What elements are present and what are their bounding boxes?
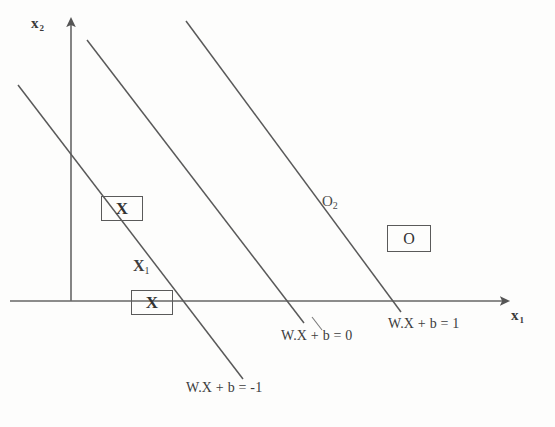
x1-annotation: X1 xyxy=(133,258,150,274)
upper-margin-line xyxy=(186,21,401,312)
o2-annotation-subscript: 2 xyxy=(333,200,338,211)
equation-label-boundary: W.X + b = 0 xyxy=(281,329,353,343)
support-vector-x-lower: X xyxy=(131,290,173,315)
support-vector-x-upper: X xyxy=(101,196,143,221)
support-vector-x-upper-glyph: X xyxy=(116,199,128,219)
x1-annotation-subscript: 1 xyxy=(145,265,150,276)
svm-diagram: x2 x1 X X1 X O2 O W.X + b = 0 W.X + b = … xyxy=(0,0,555,427)
x1-annotation-text: X xyxy=(133,257,145,274)
equation-label-upper-margin: W.X + b = 1 xyxy=(388,317,460,331)
equation-label-lower-margin: W.X + b = -1 xyxy=(186,381,262,395)
class-o-point: O xyxy=(387,225,431,252)
y-axis-label: x2 xyxy=(31,16,44,31)
class-o-point-glyph: O xyxy=(403,230,415,248)
y-axis-label-text: x xyxy=(31,15,39,31)
o2-annotation: O2 xyxy=(322,194,338,209)
x-axis-label-text: x xyxy=(511,307,519,323)
x-axis-label-subscript: 1 xyxy=(520,315,525,325)
support-vector-x-lower-glyph: X xyxy=(146,293,158,313)
o2-annotation-text: O xyxy=(322,193,333,209)
decision-boundary-line xyxy=(87,40,304,323)
y-axis-label-subscript: 2 xyxy=(40,23,45,33)
lower-margin-line xyxy=(18,85,243,379)
x-axis-label: x1 xyxy=(511,308,524,323)
diagram-canvas xyxy=(0,0,555,427)
